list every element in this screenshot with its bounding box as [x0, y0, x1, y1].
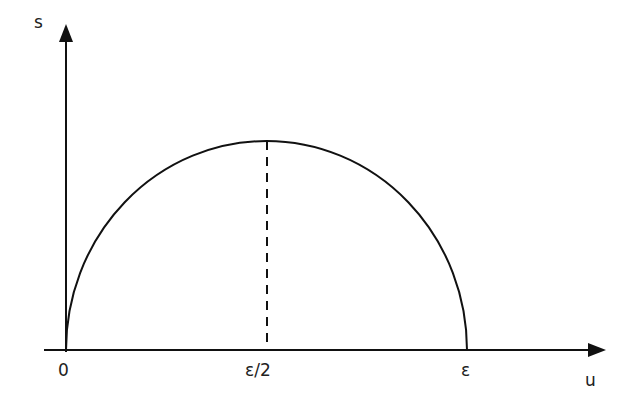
diagram-canvas: [0, 0, 635, 403]
tick-label-origin: 0: [58, 362, 69, 379]
y-axis-label: s: [34, 14, 43, 31]
x-axis-arrow-icon: [588, 343, 606, 357]
y-axis-arrow-icon: [59, 24, 73, 42]
tick-label-mid: ε/2: [245, 362, 271, 379]
x-axis-label: u: [585, 372, 596, 389]
tick-label-end: ε: [461, 362, 470, 379]
